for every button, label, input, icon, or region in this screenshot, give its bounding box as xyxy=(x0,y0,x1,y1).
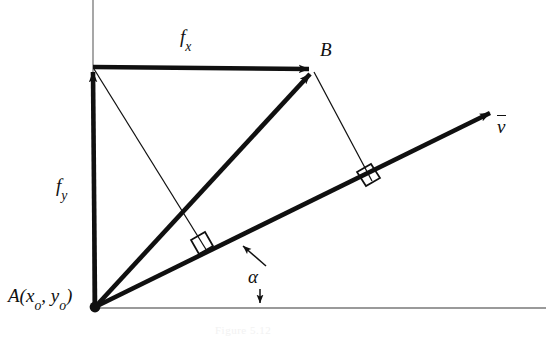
figure-caption-partial: Figure 5.12 xyxy=(215,325,271,336)
vector-fy xyxy=(93,72,95,305)
point-a-marker xyxy=(90,302,101,313)
label-point-b: B xyxy=(320,40,332,59)
label-a-close: ) xyxy=(66,285,72,306)
label-point-a: A(xo, yo) xyxy=(8,286,72,309)
label-v-overbar: v xyxy=(497,115,505,136)
label-a-y-sub: o xyxy=(59,298,66,313)
label-fx: fx xyxy=(180,27,191,50)
figure-canvas: fx fy B A(xo, yo) α v Figure 5.12 xyxy=(0,0,552,339)
projection-line-from-b xyxy=(314,72,372,181)
label-fy-sub: y xyxy=(61,188,67,203)
vector-fx xyxy=(93,67,309,69)
label-fy: fy xyxy=(56,176,67,199)
label-a-y: y xyxy=(51,285,59,306)
label-fx-sub: x xyxy=(185,39,191,54)
label-alpha: α xyxy=(248,267,258,286)
label-v-base: v xyxy=(497,116,505,137)
projection-line-from-corner xyxy=(94,69,207,251)
label-a-x-sub: o xyxy=(34,298,41,313)
vector-diagram-svg xyxy=(0,0,552,339)
alpha-arrow-up xyxy=(243,246,266,266)
label-a-open: A( xyxy=(8,285,26,306)
vector-ab xyxy=(97,74,310,305)
label-a-comma: , xyxy=(41,285,51,306)
label-v-bar: v xyxy=(497,115,505,136)
vector-v xyxy=(97,113,490,306)
